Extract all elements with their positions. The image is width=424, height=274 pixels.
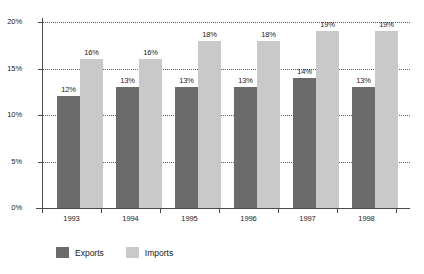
x-tick-mark-5 xyxy=(337,208,338,213)
legend-swatch-exports-icon xyxy=(56,247,69,258)
legend-label-imports: Imports xyxy=(145,248,173,258)
x-axis-line xyxy=(36,208,410,209)
x-axis-label-1998: 1998 xyxy=(337,214,396,223)
bar-label-imports-1996: 18% xyxy=(257,31,280,39)
bar-imports-1998[interactable] xyxy=(375,31,398,208)
bar-label-exports-1994: 13% xyxy=(116,77,139,85)
x-axis-label-1996: 1996 xyxy=(219,214,278,223)
x-tick-mark-3 xyxy=(219,208,220,213)
bar-label-exports-1993: 12% xyxy=(57,86,80,94)
x-tick-mark-1 xyxy=(101,208,102,213)
bar-label-imports-1998: 19% xyxy=(375,21,398,29)
y-axis-label-15: 15% xyxy=(0,65,22,73)
legend-item-imports[interactable]: Imports xyxy=(126,247,173,258)
x-axis-label-1997: 1997 xyxy=(278,214,337,223)
y-axis-label-0: 0% xyxy=(0,204,22,212)
y-axis-line xyxy=(42,18,43,210)
bar-imports-1994[interactable] xyxy=(139,59,162,208)
bar-label-exports-1996: 13% xyxy=(234,77,257,85)
bar-label-exports-1997: 14% xyxy=(293,68,316,76)
bar-imports-1993[interactable] xyxy=(80,59,103,208)
bar-label-imports-1994: 16% xyxy=(139,49,162,57)
legend-label-exports: Exports xyxy=(75,248,104,258)
bar-exports-1995[interactable] xyxy=(175,87,198,208)
x-axis-label-1993: 1993 xyxy=(42,214,101,223)
bar-exports-1993[interactable] xyxy=(57,96,80,208)
x-axis-label-1995: 1995 xyxy=(160,214,219,223)
x-tick-mark-6 xyxy=(396,208,397,213)
gridline-20 xyxy=(42,22,410,23)
x-tick-mark-4 xyxy=(278,208,279,213)
chart-legend: Exports Imports xyxy=(56,247,173,258)
bar-exports-1994[interactable] xyxy=(116,87,139,208)
bar-label-imports-1997: 19% xyxy=(316,21,339,29)
legend-swatch-imports-icon xyxy=(126,247,139,258)
bar-label-imports-1993: 16% xyxy=(80,49,103,57)
plot-area: 20% 15% 10% 5% 0% 12% 16% 13% 16% 13% 18… xyxy=(42,22,410,208)
bar-label-imports-1995: 18% xyxy=(198,31,221,39)
bar-label-exports-1995: 13% xyxy=(175,77,198,85)
y-axis-label-10: 10% xyxy=(0,111,22,119)
legend-item-exports[interactable]: Exports xyxy=(56,247,104,258)
x-tick-mark-0 xyxy=(42,208,43,213)
bar-imports-1997[interactable] xyxy=(316,31,339,208)
x-axis-label-1994: 1994 xyxy=(101,214,160,223)
bar-imports-1996[interactable] xyxy=(257,41,280,208)
bar-exports-1996[interactable] xyxy=(234,87,257,208)
y-axis-label-20: 20% xyxy=(0,18,22,26)
bar-exports-1997[interactable] xyxy=(293,78,316,208)
bar-imports-1995[interactable] xyxy=(198,41,221,208)
bar-chart: 20% 15% 10% 5% 0% 12% 16% 13% 16% 13% 18… xyxy=(0,0,424,274)
bar-exports-1998[interactable] xyxy=(352,87,375,208)
x-tick-mark-2 xyxy=(160,208,161,213)
bar-label-exports-1998: 13% xyxy=(352,77,375,85)
y-axis-label-5: 5% xyxy=(0,158,22,166)
